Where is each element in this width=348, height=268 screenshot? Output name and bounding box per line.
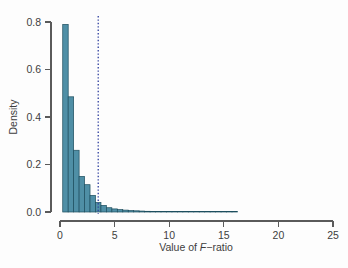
histogram-bar	[85, 185, 90, 212]
histogram-bar	[188, 211, 193, 212]
histogram-bar	[106, 208, 111, 212]
histogram-bar	[63, 24, 68, 212]
histogram-bar	[194, 211, 199, 212]
histogram-bar	[128, 211, 133, 212]
histogram-bar	[134, 211, 139, 212]
histogram-bar	[227, 211, 232, 212]
histogram-bar	[74, 150, 79, 212]
x-tick-label: 15	[218, 229, 230, 241]
x-tick-label: 20	[273, 229, 285, 241]
y-tick-label: 0.0	[26, 206, 41, 218]
histogram-bar	[79, 176, 84, 212]
histogram-bar	[145, 211, 150, 212]
histogram-bar	[166, 211, 171, 212]
y-tick-label: 0.4	[26, 111, 41, 123]
histogram-bar	[101, 205, 106, 212]
histogram-bar	[156, 211, 161, 212]
histogram-bar	[90, 195, 95, 212]
histogram-figure: 0510152025 Value of F−ratio 0.00.20.40.6…	[0, 0, 348, 268]
chart-canvas: 0510152025 Value of F−ratio 0.00.20.40.6…	[0, 0, 348, 268]
histogram-bar	[68, 97, 73, 212]
y-tick-label: 0.6	[26, 63, 41, 75]
y-tick-label: 0.2	[26, 158, 41, 170]
x-tick-label: 25	[327, 229, 339, 241]
histogram-bar	[150, 211, 155, 212]
histogram-bar	[216, 211, 221, 212]
histogram-bar	[199, 211, 204, 212]
y-tick-label: 0.8	[26, 16, 41, 28]
histogram-bar	[117, 210, 122, 212]
histogram-bar	[123, 210, 128, 212]
histogram-bar	[112, 209, 117, 212]
y-axis-title: Density	[7, 99, 19, 135]
x-tick-label: 5	[112, 229, 118, 241]
chart-background	[0, 0, 348, 268]
histogram-bar	[205, 211, 210, 212]
histogram-bar	[139, 211, 144, 212]
histogram-bar	[221, 211, 226, 212]
histogram-bar	[172, 211, 177, 212]
x-axis-title: Value of F−ratio	[159, 241, 233, 253]
histogram-bar	[177, 211, 182, 212]
histogram-bar	[183, 211, 188, 212]
histogram-bar	[232, 211, 237, 212]
histogram-bar	[161, 211, 166, 212]
x-tick-label: 10	[163, 229, 175, 241]
histogram-bar	[210, 211, 215, 212]
x-tick-label: 0	[57, 229, 63, 241]
